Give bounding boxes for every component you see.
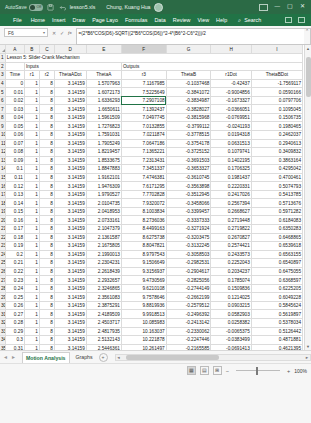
cell[interactable]: 1 <box>24 250 39 259</box>
cell[interactable]: 8.1003834 <box>121 207 166 216</box>
cell[interactable]: 0.14 <box>5 199 24 208</box>
cell[interactable]: 0.13 <box>5 190 24 199</box>
cell[interactable]: 7.2313431 <box>121 156 166 165</box>
cell[interactable]: 9.6210108 <box>121 284 166 293</box>
cell[interactable]: 8 <box>39 336 54 345</box>
cell[interactable]: 8 <box>39 130 54 139</box>
cell[interactable]: 8 <box>39 250 54 259</box>
cell[interactable]: 0.5126442 <box>251 327 302 336</box>
cell[interactable]: 0.1 <box>5 165 24 174</box>
cell[interactable]: 8 <box>39 190 54 199</box>
cell[interactable]: 0.02 <box>5 96 24 105</box>
account-cluster[interactable]: Chung, Kuang Hua <box>106 3 162 12</box>
cell[interactable]: 0.29 <box>5 327 24 336</box>
cell[interactable]: 3.14159 <box>54 130 86 139</box>
cell[interactable]: 7.0132855 <box>121 122 166 131</box>
cell[interactable]: 3.14159 <box>54 310 86 319</box>
cell[interactable]: 8.6275738 <box>121 233 166 242</box>
cell[interactable]: 7.0497745 <box>121 113 166 122</box>
column-header-f[interactable]: F <box>121 45 166 54</box>
cell[interactable]: 0.1214025 <box>211 293 251 302</box>
cell[interactable]: -0.3841072 <box>166 88 211 97</box>
cell[interactable]: 8 <box>39 173 54 182</box>
cell[interactable]: 1.6336293 <box>86 96 121 105</box>
cell[interactable]: 0.2574421 <box>211 242 251 251</box>
horizontal-scrollbar[interactable]: ◄ ► <box>115 354 311 361</box>
cell[interactable]: 2.0733161 <box>86 216 121 225</box>
sheet-nav-arrows[interactable]: ◄ ► <box>3 354 19 360</box>
cell[interactable]: 3.14159 <box>54 267 86 276</box>
cell[interactable]: 9.9918513 <box>121 310 166 319</box>
column-header-e[interactable]: E <box>86 45 121 54</box>
cancel-icon[interactable]: ✕ <box>52 30 56 36</box>
cell[interactable]: 0.5845624 <box>251 301 302 310</box>
cell[interactable]: 3.14159 <box>54 319 86 328</box>
close-button[interactable]: ✕ <box>300 4 305 10</box>
cell[interactable]: 0.18 <box>5 233 24 242</box>
zoom-slider[interactable] <box>236 370 280 371</box>
horizontal-scroll-thumb[interactable] <box>126 355 219 360</box>
cell[interactable]: 0.5378034 <box>251 319 302 328</box>
cell[interactable]: 0.23 <box>5 276 24 285</box>
menu-item-help[interactable]: Help <box>215 16 228 24</box>
cell[interactable]: 0.2670827 <box>211 233 251 242</box>
cell[interactable]: -0.2579512 <box>166 301 211 310</box>
cell[interactable]: 0.6350283 <box>251 224 302 233</box>
cell[interactable]: 0.2668627 <box>211 207 251 216</box>
row-header[interactable]: 35 <box>0 344 5 350</box>
cell[interactable]: -0.2744149 <box>166 284 211 293</box>
cell[interactable]: 10.085983 <box>121 319 166 328</box>
cell[interactable]: 9.8819936 <box>121 301 166 310</box>
cell[interactable]: 0.17 <box>5 224 24 233</box>
cell[interactable]: 8 <box>39 199 54 208</box>
header-thetaa[interactable]: ThetaA <box>86 71 121 80</box>
cell[interactable]: -0.2413142 <box>166 319 211 328</box>
cell[interactable]: 0.31 <box>5 344 24 350</box>
cell[interactable]: 0.21 <box>5 259 24 268</box>
cell[interactable]: 1 <box>24 88 39 97</box>
cell[interactable]: 0.06 <box>5 130 24 139</box>
cell[interactable]: -0.3778515 <box>166 130 211 139</box>
cell[interactable]: 1 <box>24 216 39 225</box>
cell[interactable]: -0.3691503 <box>166 156 211 165</box>
menu-item-view[interactable]: View <box>196 16 210 24</box>
cell[interactable]: 3.14159 <box>54 113 86 122</box>
section-outputs[interactable]: Outputs <box>121 62 302 71</box>
cell[interactable]: 3.14159 <box>54 284 86 293</box>
cell[interactable]: 0.22 <box>5 267 24 276</box>
cell[interactable]: 9.4730569 <box>121 276 166 285</box>
cell[interactable]: 1.8847883 <box>86 165 121 174</box>
cell[interactable]: -0.3754178 <box>166 139 211 148</box>
header-r1[interactable]: r1 <box>24 71 39 80</box>
cell[interactable]: 0.5713676 <box>251 199 302 208</box>
cell[interactable]: 8 <box>39 105 54 114</box>
sheet-tab-motion-analysis[interactable]: Motion Analysis <box>22 352 70 363</box>
cell[interactable]: 0.0194318 <box>211 130 251 139</box>
cell[interactable]: 1 <box>24 276 39 285</box>
sheet-prev-icon[interactable]: ◄ <box>3 354 8 360</box>
column-header-d[interactable]: D <box>54 45 86 54</box>
cell[interactable]: 0.6563155 <box>251 250 302 259</box>
cell[interactable]: 7.6171295 <box>121 182 166 191</box>
cell[interactable]: 3.14159 <box>54 190 86 199</box>
cell[interactable]: 1 <box>24 207 39 216</box>
column-header-b[interactable]: B <box>24 45 39 54</box>
cell[interactable]: 1 <box>24 310 39 319</box>
cell[interactable]: 3.14159 <box>54 139 86 148</box>
cell[interactable]: 0.15 <box>5 207 24 216</box>
cell-a2[interactable] <box>5 62 24 71</box>
cell[interactable]: 0.5074793 <box>251 182 302 191</box>
cell[interactable]: -0.3337333 <box>166 216 211 225</box>
scroll-up-icon[interactable]: ▲ <box>305 46 311 51</box>
scroll-down-icon[interactable]: ▼ <box>305 344 311 349</box>
cell[interactable]: 3.14159 <box>54 79 86 88</box>
cell[interactable]: 3.14159 <box>54 336 86 345</box>
section-inputs[interactable]: Inputs <box>24 62 121 71</box>
cell[interactable]: 1 <box>24 173 39 182</box>
cell[interactable]: 8 <box>39 293 54 302</box>
cell[interactable]: 0.5619897 <box>251 310 302 319</box>
cell[interactable]: -0.3512945 <box>166 190 211 199</box>
cell[interactable]: 0.0258382 <box>211 319 251 328</box>
cell[interactable]: 1 <box>24 122 39 131</box>
cell[interactable]: 8 <box>39 156 54 165</box>
